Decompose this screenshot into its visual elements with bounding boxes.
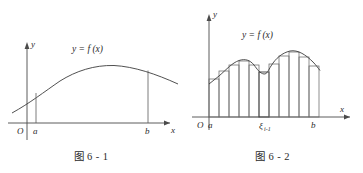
tick-label-b: b — [311, 120, 316, 130]
xi-label: ξ — [259, 121, 263, 131]
function-curve — [209, 51, 320, 84]
rectangle-bar — [239, 61, 249, 117]
figure-6-1-canvas: y x O a b y = f (x) — [0, 0, 182, 148]
y-axis-group — [25, 42, 30, 140]
rectangle-bar — [289, 52, 299, 117]
x-axis-label: x — [170, 125, 175, 135]
x-axis-group — [8, 121, 170, 126]
figure-6-2-caption: 图 6 - 2 — [182, 148, 363, 163]
y-axis-arrow-icon — [207, 14, 212, 21]
rectangle-bar-highlighted — [259, 72, 269, 117]
figure-sheet: y x O a b y = f (x) 图 6 - 1 — [0, 0, 363, 173]
figure-6-1: y x O a b y = f (x) 图 6 - 1 — [0, 0, 182, 173]
figure-6-2-canvas: y x O a b ξ i-1 y = f (x) — [182, 0, 363, 148]
rectangle-bar — [279, 56, 289, 117]
rectangle-bar — [299, 57, 309, 117]
xi-subscript-label: i-1 — [264, 126, 271, 132]
function-curve — [12, 65, 178, 113]
tick-label-b: b — [145, 126, 150, 136]
rectangle-bar — [209, 79, 219, 117]
x-axis-arrow-icon — [344, 115, 350, 120]
tick-label-a: a — [33, 126, 38, 136]
tick-label-a: a — [208, 120, 213, 130]
rectangle-bar — [309, 66, 319, 117]
y-axis-arrow-icon — [25, 42, 30, 49]
figure-6-1-caption: 图 6 - 1 — [0, 148, 182, 163]
origin-label: O — [197, 120, 204, 130]
rectangle-bar — [269, 64, 279, 117]
y-axis-label: y — [30, 39, 35, 49]
function-label: y = f (x) — [71, 44, 103, 55]
x-axis-label: x — [339, 104, 344, 114]
rectangle-bar — [249, 65, 259, 117]
function-label: y = f (x) — [241, 30, 273, 41]
y-axis-label: y — [212, 9, 217, 19]
rectangle-bar — [229, 65, 239, 117]
rectangle-bar — [219, 71, 229, 117]
origin-label: O — [17, 126, 24, 136]
x-axis-arrow-icon — [164, 121, 170, 126]
figure-6-2: y x O a b ξ i-1 y = f (x) 图 6 - 2 — [182, 0, 363, 173]
riemann-rectangles — [209, 52, 319, 117]
